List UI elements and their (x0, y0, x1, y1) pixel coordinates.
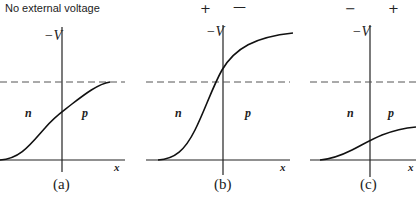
panel-b-sign-left: + (200, 1, 211, 16)
figure-title: No external voltage (5, 2, 100, 14)
panel-b-graphics (146, 25, 293, 175)
panel-b-label: (b) (214, 176, 232, 193)
panel-b-region-n: n (175, 106, 182, 121)
panel-a-region-p: p (82, 106, 88, 121)
panel-c-label: (c) (360, 176, 377, 193)
panel-b-region-p: p (245, 106, 251, 121)
panel-b-x-label: x (280, 161, 286, 173)
panel-a-label: (a) (53, 176, 70, 193)
panel-b-axis-label: −V (206, 24, 224, 40)
panel-a-x-label: x (114, 161, 120, 173)
panel-c-graphics (310, 25, 416, 177)
panel-b-potential-curve (158, 33, 293, 160)
panel-c-sign-left: − (345, 1, 356, 16)
panel-a-region-n: n (25, 106, 32, 121)
panel-c-potential-curve (320, 127, 416, 160)
panel-c-sign-right: + (388, 1, 399, 16)
panel-b-sign-right: — (233, 0, 246, 14)
panel-c-region-n: n (347, 106, 354, 121)
panel-a-graphics (0, 27, 125, 172)
panel-c-x-label: x (408, 161, 414, 173)
pn-junction-potential-figure: No external voltage −V n p x (a) + — −V … (0, 0, 416, 197)
panel-a-potential-curve (0, 82, 110, 160)
panel-c-region-p: p (388, 106, 394, 121)
panel-a-axis-label: −V (44, 28, 62, 44)
panel-c-axis-label: −V (352, 24, 370, 40)
